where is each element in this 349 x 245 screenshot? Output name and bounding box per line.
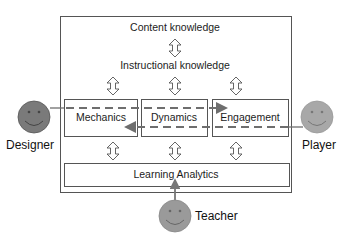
player-smiley-icon <box>301 101 333 133</box>
learning-analytics-label: Learning Analytics <box>133 168 218 180</box>
content-knowledge-label: Content knowledge <box>130 21 220 33</box>
engagement-label: Engagement <box>220 111 280 123</box>
double-arrow-icon <box>169 39 181 57</box>
instructional-knowledge-label: Instructional knowledge <box>120 59 230 71</box>
double-arrow-icon <box>230 77 242 95</box>
teacher-smiley-icon <box>159 200 191 232</box>
mechanics-label: Mechanics <box>76 111 126 123</box>
double-arrow-icon <box>169 77 181 95</box>
designer-label: Designer <box>6 138 54 152</box>
double-arrow-icon <box>107 77 119 95</box>
double-arrow-icon <box>107 142 119 160</box>
dynamics-label: Dynamics <box>151 111 197 123</box>
player-label: Player <box>302 138 336 152</box>
double-arrow-icon <box>230 142 242 160</box>
designer-smiley-icon <box>18 101 50 133</box>
double-arrow-icon <box>169 142 181 160</box>
teacher-label: Teacher <box>195 209 238 223</box>
